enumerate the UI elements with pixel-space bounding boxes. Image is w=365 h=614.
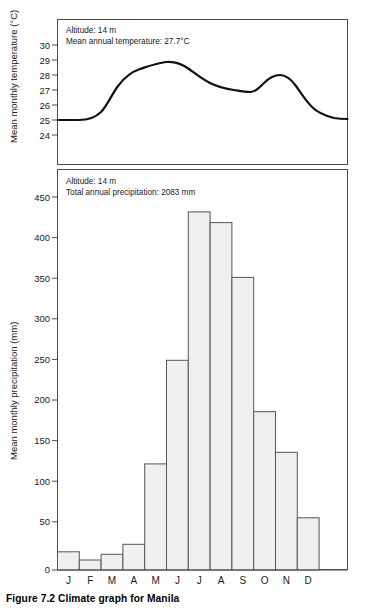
month-label-jun: J [175, 575, 180, 586]
precipitation-tick-50: 50 [39, 516, 57, 527]
bar-aug [210, 223, 232, 570]
temperature-tick-24: 24 [39, 130, 57, 141]
bar-apr [123, 544, 145, 570]
precipitation-tick-label: 100 [34, 476, 50, 487]
temperature-tick-label: 27 [39, 85, 50, 96]
precipitation-annotation-altitude: Altitude: 14 m [66, 177, 116, 186]
bar-jun [167, 360, 189, 570]
precipitation-tick-150: 150 [34, 435, 57, 446]
month-label-jan: J [66, 575, 71, 586]
month-label-may: M [151, 575, 159, 586]
bar-dec [297, 518, 319, 570]
temperature-tick-27: 27 [39, 85, 57, 96]
temperature-tick-28: 28 [39, 70, 57, 81]
bar-nov [276, 452, 298, 570]
precipitation-tick-200: 200 [34, 394, 57, 405]
precipitation-tick-label: 350 [34, 273, 50, 284]
precipitation-tick-350: 350 [34, 273, 57, 284]
figure-caption: Figure 7.2 Climate graph for Manila [6, 593, 362, 604]
precipitation-annotation-total: Total annual precipitation: 2083 mm [66, 188, 195, 197]
month-label-mar: M [108, 575, 116, 586]
temperature-tick-label: 30 [39, 40, 50, 51]
precipitation-tick-400: 400 [34, 232, 57, 243]
precipitation-tick-0: 0 [45, 564, 58, 575]
precipitation-tick-450: 450 [34, 192, 57, 203]
month-label-aug: A [218, 575, 225, 586]
bar-jan [58, 552, 80, 570]
month-label-feb: F [87, 575, 93, 586]
bar-mar [101, 554, 123, 570]
month-label-sep: S [239, 575, 246, 586]
precipitation-tick-300: 300 [34, 313, 57, 324]
temperature-axis-label: Mean monthly temperature (°C) [8, 10, 19, 143]
month-label-apr: A [130, 575, 137, 586]
precipitation-tick-100: 100 [34, 476, 57, 487]
bar-jul [188, 212, 210, 570]
bar-oct [254, 412, 276, 570]
precipitation-tick-label: 150 [34, 435, 50, 446]
temperature-tick-30: 30 [39, 40, 57, 51]
precipitation-tick-label: 450 [34, 192, 50, 203]
temperature-tick-label: 24 [39, 130, 50, 141]
temperature-tick-label: 25 [39, 115, 50, 126]
climate-graph-figure: Mean monthly temperature (°C) 30 29 28 2… [0, 0, 365, 614]
month-label-oct: O [261, 575, 269, 586]
month-label-jul: J [197, 575, 202, 586]
month-axis: J F M A M J J A S O N D [66, 575, 312, 586]
bar-feb [79, 560, 101, 570]
precipitation-tick-label: 200 [34, 394, 50, 405]
temperature-tick-29: 29 [39, 55, 57, 66]
climate-graph-svg: Mean monthly temperature (°C) 30 29 28 2… [0, 0, 365, 590]
precipitation-tick-label: 400 [34, 232, 50, 243]
precipitation-axis-label: Mean monthly precipitation (mm) [8, 322, 19, 460]
temperature-annotation-mean: Mean annual temperature: 27.7°C [66, 37, 190, 46]
temperature-tick-label: 29 [39, 55, 50, 66]
temperature-y-ticks: 30 29 28 27 26 25 [39, 40, 57, 141]
temperature-tick-label: 26 [39, 100, 50, 111]
month-label-nov: N [283, 575, 290, 586]
precipitation-y-ticks: 450 400 350 300 250 200 [34, 192, 57, 576]
precipitation-tick-250: 250 [34, 354, 57, 365]
bar-may [145, 464, 167, 570]
precipitation-tick-label: 250 [34, 354, 50, 365]
temperature-annotation-altitude: Altitude: 14 m [66, 26, 116, 35]
temperature-tick-26: 26 [39, 100, 57, 111]
month-label-dec: D [305, 575, 312, 586]
precipitation-tick-label: 300 [34, 313, 50, 324]
temperature-tick-25: 25 [39, 115, 57, 126]
temperature-tick-label: 28 [39, 70, 50, 81]
bar-sep [232, 277, 254, 570]
precipitation-tick-label: 0 [45, 564, 50, 575]
precipitation-tick-label: 50 [39, 516, 50, 527]
